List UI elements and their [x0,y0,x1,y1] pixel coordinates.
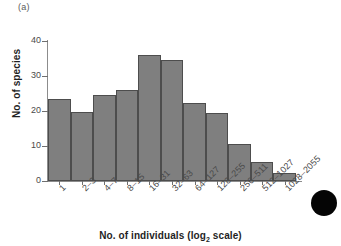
histogram-bar [71,112,94,181]
histogram-bar [48,99,71,181]
panel-label: (a) [18,2,30,12]
y-tick-label-wrapper: 0 [0,176,41,185]
y-tick-mark [42,181,48,182]
histogram-bar [116,90,139,181]
figure-panel-a: (a) 010203040 No. of species 12–34–78–15… [0,0,341,246]
histogram-bar [93,95,116,181]
histogram-bar [161,60,184,181]
x-axis-title: No. of individuals (log2 scale) [0,230,341,243]
x-tick-label: 1 [57,182,68,193]
histogram-bar [138,55,161,181]
plot-area [48,41,296,181]
y-tick-label: 0 [1,176,41,185]
y-axis-title: No. of species [11,24,22,144]
scan-artifact-blob [311,190,337,216]
